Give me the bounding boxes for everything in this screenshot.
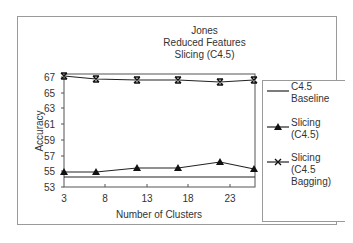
- x-axis-label: Number of Clusters: [116, 209, 202, 220]
- legend-label: Slicing: [291, 117, 347, 129]
- legend-label: C4.5: [291, 81, 347, 93]
- series-slicing: [60, 158, 258, 175]
- legend-label: Baseline: [291, 93, 347, 105]
- ytick: 55: [44, 166, 56, 177]
- ytick: 63: [44, 103, 56, 114]
- xtick: 3: [61, 193, 67, 204]
- xtick: 18: [182, 193, 194, 204]
- ytick: 67: [44, 72, 56, 83]
- series-slicing-bagging: [61, 73, 257, 85]
- legend-triangle-icon: [267, 121, 289, 133]
- y-axis-label: Accuracy: [34, 110, 45, 151]
- legend: C4.5 Baseline Slicing (C4.5) Slicing (C4…: [262, 80, 345, 222]
- xtick: 23: [224, 193, 236, 204]
- xtick: 8: [102, 193, 108, 204]
- axes-box: [64, 74, 255, 187]
- ytick: 59: [44, 135, 56, 146]
- ytick: 61: [44, 119, 56, 130]
- xtick: 13: [141, 193, 153, 204]
- ytick: 57: [44, 151, 56, 162]
- legend-label: Slicing: [291, 152, 347, 164]
- ytick: 53: [44, 182, 56, 193]
- legend-label: Bagging): [291, 176, 347, 188]
- legend-label: (C4.5): [291, 129, 347, 141]
- legend-x-icon: [267, 156, 289, 168]
- legend-label: (C4.5: [291, 164, 347, 176]
- legend-line-icon: [267, 85, 289, 97]
- ytick: 65: [44, 88, 56, 99]
